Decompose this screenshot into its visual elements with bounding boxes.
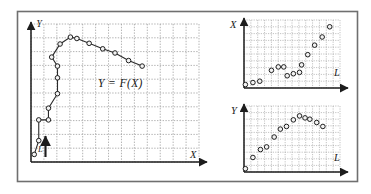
data-point: [113, 51, 118, 56]
data-point: [285, 73, 290, 78]
data-point: [284, 124, 289, 129]
data-point: [55, 76, 60, 81]
data-point: [264, 145, 269, 150]
main-plot-x-axis-label: X: [189, 149, 197, 160]
data-point: [327, 25, 332, 30]
data-point: [258, 147, 263, 152]
data-point: [297, 114, 302, 119]
data-point: [251, 80, 256, 85]
data-point: [243, 82, 248, 87]
data-point: [291, 71, 296, 76]
data-point: [303, 116, 308, 121]
data-point: [321, 124, 326, 129]
data-point: [308, 117, 313, 122]
data-point: [297, 70, 302, 75]
data-point: [281, 65, 286, 70]
data-point: [257, 79, 262, 84]
data-point: [314, 120, 319, 125]
figure-root: Y X Y = F(X) L X L Y L: [0, 0, 371, 194]
data-point: [75, 36, 80, 41]
data-point: [272, 135, 277, 140]
data-point: [55, 91, 60, 96]
x-vs-l-y-axis-label: X: [229, 19, 237, 30]
data-point: [312, 43, 317, 48]
data-point: [140, 64, 145, 69]
data-point: [55, 64, 60, 69]
data-point: [49, 55, 54, 60]
data-point: [299, 63, 304, 68]
data-point: [68, 35, 73, 40]
data-point: [58, 42, 63, 47]
main-plot-equation-label: Y = F(X): [98, 77, 143, 90]
data-point: [126, 58, 131, 63]
main-plot-arrow-label: L: [37, 144, 43, 154]
data-point: [276, 65, 281, 70]
data-point: [251, 155, 256, 160]
figure-canvas: Y X Y = F(X) L X L Y L: [0, 0, 371, 194]
data-point: [100, 47, 105, 52]
data-point: [291, 118, 296, 123]
x-vs-l-x-axis-label: L: [333, 67, 340, 78]
data-point: [305, 52, 310, 57]
data-point: [36, 138, 41, 143]
data-point: [46, 106, 51, 111]
data-point: [32, 152, 37, 157]
y-vs-l-x-axis-label: L: [333, 152, 340, 163]
data-point: [278, 127, 283, 132]
data-point: [46, 118, 51, 123]
data-point: [36, 118, 41, 123]
data-point: [269, 68, 274, 73]
data-point: [320, 35, 325, 40]
data-point: [243, 166, 248, 171]
data-point: [87, 41, 92, 46]
